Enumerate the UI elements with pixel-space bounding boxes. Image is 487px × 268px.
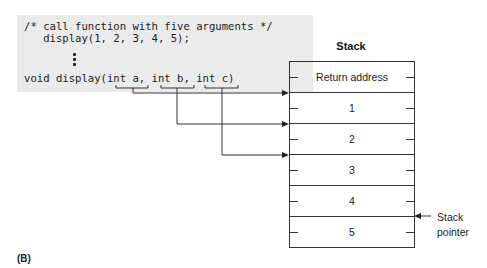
stack-pointer-label: Stack pointer xyxy=(437,210,469,240)
arrows-overlay xyxy=(0,0,487,268)
stack-pointer-arrow-icon xyxy=(414,213,421,219)
arrow-a-line xyxy=(133,88,284,93)
bracket-a-icon xyxy=(116,85,148,88)
bracket-c-icon xyxy=(205,85,238,88)
arrow-c-line xyxy=(222,88,284,155)
bracket-b-icon xyxy=(161,85,194,88)
arrow-head-icon xyxy=(282,152,289,158)
figure-label: (B) xyxy=(17,253,31,264)
arrow-head-icon xyxy=(282,121,289,127)
arrow-head-icon xyxy=(282,90,289,96)
